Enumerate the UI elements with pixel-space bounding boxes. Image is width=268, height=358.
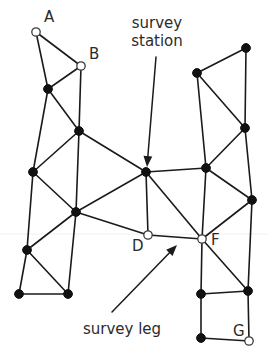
survey-leg-callout-label: survey leg — [83, 320, 161, 338]
survey-station-filled — [248, 196, 257, 205]
survey-station-filled — [29, 168, 38, 177]
station-label-d: D — [132, 237, 144, 255]
survey-station-open — [144, 231, 152, 239]
survey-station-open — [77, 62, 85, 70]
survey-station-callout-line-1: survey — [132, 14, 183, 32]
survey-leg — [201, 239, 202, 294]
survey-station-open — [32, 28, 40, 36]
survey-station-filled — [197, 334, 206, 343]
survey-leg — [245, 48, 246, 128]
survey-leg — [248, 291, 249, 341]
survey-station-filled — [75, 127, 84, 136]
survey-station-open — [198, 235, 206, 243]
survey-station-filled — [142, 168, 151, 177]
survey-station-filled — [193, 69, 202, 78]
station-label-g: G — [233, 322, 245, 340]
survey-station-filled — [242, 44, 251, 53]
survey-station-filled — [72, 208, 81, 217]
survey-station-filled — [64, 290, 73, 299]
station-label-b: B — [89, 45, 99, 63]
survey-station-open — [245, 337, 253, 345]
station-label-f: F — [211, 231, 220, 249]
station-label-a: A — [44, 8, 55, 26]
survey-network-canvas: ABDFG surveystationsurvey leg — [0, 0, 268, 358]
survey-station-filled — [241, 124, 250, 133]
survey-station-filled — [202, 164, 211, 173]
survey-station-callout-line-2: station — [131, 32, 183, 50]
survey-station-filled — [244, 287, 253, 296]
survey-network-diagram: ABDFG surveystationsurvey leg — [0, 0, 268, 358]
survey-station-filled — [23, 246, 32, 255]
survey-station-filled — [197, 290, 206, 299]
survey-station-filled — [44, 85, 53, 94]
survey-station-filled — [15, 290, 24, 299]
